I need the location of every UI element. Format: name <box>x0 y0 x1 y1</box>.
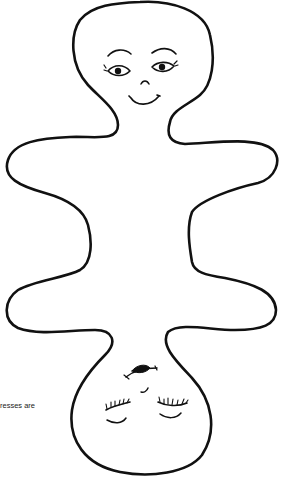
upper-smile <box>129 95 160 104</box>
upper-right-lashes <box>174 61 178 66</box>
lower-nose <box>141 388 148 392</box>
lower-right-eye-crease <box>160 413 181 418</box>
upper-left-eyebrow <box>108 50 131 56</box>
lower-left-eye-lid <box>106 402 130 410</box>
upper-right-pupil <box>159 64 165 70</box>
caption-text: resses are <box>0 401 35 410</box>
doll-outline <box>7 2 277 475</box>
upper-nose <box>141 81 149 84</box>
paper-doll-figure <box>0 0 284 477</box>
upper-left-lashes <box>104 65 107 71</box>
upper-right-eyebrow <box>152 49 176 54</box>
lower-left-eye-crease <box>107 418 126 423</box>
upper-left-pupil <box>115 68 121 74</box>
lower-lip <box>132 365 150 373</box>
